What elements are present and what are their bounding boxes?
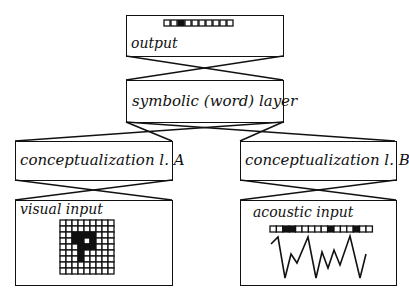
diagram-canvas: output symbolic (word) layer conceptuali… — [0, 0, 409, 290]
symbolic-layer-label: symbolic (word) layer — [132, 92, 297, 110]
conceptualization-b-label: conceptualization l. B — [245, 151, 409, 169]
conceptualization-a-label: conceptualization l. A — [20, 151, 185, 169]
visual-input-label: visual input — [20, 201, 103, 217]
output-label: output — [131, 35, 178, 51]
acoustic-input-label: acoustic input — [253, 204, 353, 220]
